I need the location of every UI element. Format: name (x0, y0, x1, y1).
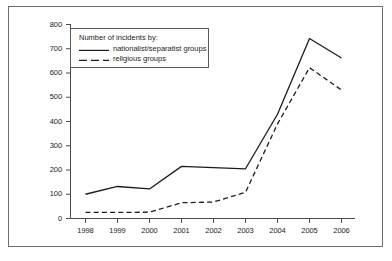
chart-legend: Number of incidents by: nationalist/sepa… (70, 28, 209, 68)
legend-title: Number of incidents by: (79, 33, 158, 42)
legend-label-nationalist-separatist: nationalist/separatist groups (113, 44, 206, 53)
x-tick-label: 2001 (167, 226, 197, 235)
legend-swatch-dashed-icon (79, 59, 109, 61)
y-tick-label: 300 (38, 141, 62, 150)
series-religious-line (86, 68, 342, 213)
x-tick-label: 2005 (295, 226, 325, 235)
y-tick-label: 600 (38, 68, 62, 77)
x-tick-label: 2006 (327, 226, 357, 235)
y-tick-label: 400 (38, 117, 62, 126)
x-tick-label: 2000 (135, 226, 165, 235)
x-tick-label: 2002 (199, 226, 229, 235)
legend-swatch-solid-icon (79, 49, 109, 51)
x-tick-label: 2003 (231, 226, 261, 235)
y-tick-label: 700 (38, 44, 62, 53)
chart-figure: 0100200300400500600700800 19981999200020… (0, 0, 392, 261)
y-tick-label: 800 (38, 20, 62, 29)
y-tick-label: 100 (38, 189, 62, 198)
y-tick-label: 200 (38, 165, 62, 174)
y-tick-label: 500 (38, 92, 62, 101)
x-axis-ticks (86, 219, 342, 224)
x-tick-label: 1998 (71, 226, 101, 235)
x-tick-label: 1999 (103, 226, 133, 235)
y-tick-label: 0 (38, 214, 62, 223)
x-tick-label: 2004 (263, 226, 293, 235)
legend-label-religious: religious groups (113, 54, 166, 63)
